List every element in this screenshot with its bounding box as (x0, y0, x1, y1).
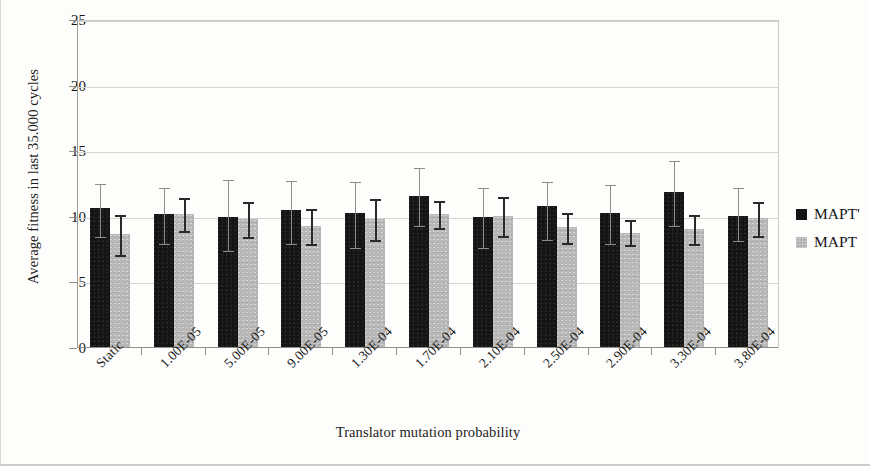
x-axis-tick-mark (205, 348, 206, 355)
plot-area (77, 20, 779, 348)
x-axis-tick-mark (268, 348, 269, 355)
y-axis-tick-mark (69, 282, 77, 283)
gridline (78, 152, 778, 153)
series-0-swatch-icon (796, 209, 807, 220)
x-axis-tick-mark (588, 348, 589, 355)
gridline (78, 87, 778, 88)
x-axis-title: Translator mutation probability (77, 424, 779, 441)
x-axis-tick-mark (651, 348, 652, 355)
gridline (78, 21, 778, 22)
x-axis-tick-mark (524, 348, 525, 355)
legend-item-1[interactable]: MAPT (796, 228, 860, 256)
y-axis-tick-mark (69, 20, 77, 21)
x-axis-tick-mark (332, 348, 333, 355)
x-axis-tick-mark (460, 348, 461, 355)
y-axis-tick-mark (69, 86, 77, 87)
y-axis-tick-mark (69, 217, 77, 218)
x-axis-tick-mark (396, 348, 397, 355)
legend-item-0-label: MAPT' (814, 205, 860, 223)
bar-chart-figure: Average fitness in last 35.000 cycles 05… (0, 0, 870, 466)
legend-item-1-label: MAPT (814, 233, 857, 251)
x-axis-tick-mark (715, 348, 716, 355)
y-axis-tick-mark (69, 348, 77, 349)
series-1-swatch-icon (796, 237, 807, 248)
legend-item-0[interactable]: MAPT' (796, 200, 860, 228)
y-axis-tick-mark (69, 151, 77, 152)
legend: MAPT' MAPT (796, 200, 860, 256)
x-axis-tick-mark (141, 348, 142, 355)
